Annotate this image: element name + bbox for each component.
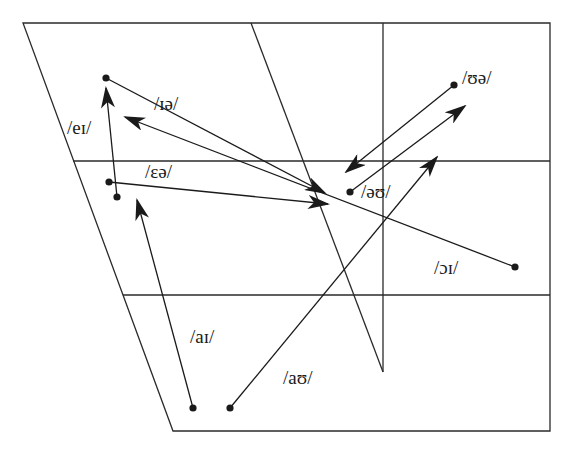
label-ou: /əʊ/ [361,182,390,201]
diphthong-arrow [125,117,515,267]
start-dot [346,188,353,195]
label-au: /aʊ/ [283,368,312,387]
diphthong-arrow [106,78,325,193]
start-dot [226,404,233,411]
diphthong-arrow [346,85,454,172]
label-ai: /aɪ/ [190,327,214,346]
start-dot [102,74,109,81]
label-ia: /ɪə/ [154,94,178,113]
label-ea: /ɛə/ [145,162,172,181]
diphthong-arrow [230,157,437,408]
label-ei: /eɪ/ [67,118,91,137]
diphthong-arrow [350,106,465,192]
start-dot [511,263,518,270]
start-dot [113,193,120,200]
start-dot [450,81,457,88]
label-ua: /ʊə/ [462,68,491,87]
label-oi: /ɔɪ/ [434,258,458,277]
diphthong-arrows [106,78,515,408]
start-points [102,74,518,411]
diphthong-arrow [137,200,193,408]
diphthong-arrow [109,182,328,204]
start-dot [105,178,112,185]
start-dot [189,404,196,411]
